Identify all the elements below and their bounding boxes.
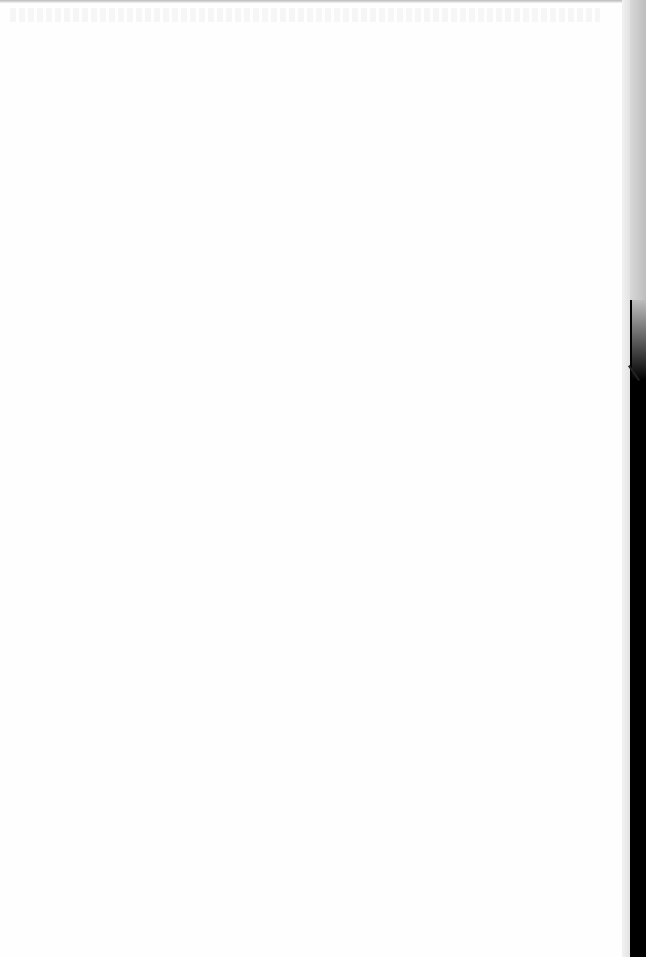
page-top-edge <box>0 0 628 3</box>
blank-page <box>0 0 628 957</box>
scan-border-transition <box>632 300 646 380</box>
page-gutter-shadow <box>622 0 630 957</box>
bleed-through-text <box>10 8 600 22</box>
scan-border-top <box>630 0 646 300</box>
